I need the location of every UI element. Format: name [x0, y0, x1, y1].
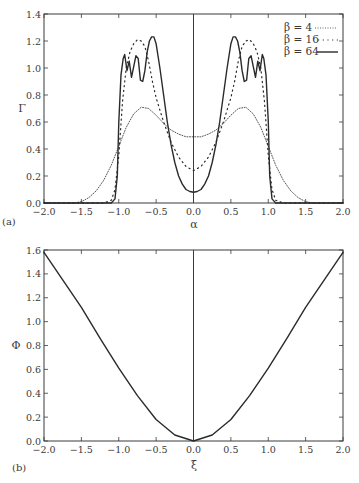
panel-b-y-axis-label: Φ — [11, 339, 20, 352]
y-tick-label: 0.4 — [26, 388, 41, 399]
x-tick-label: 0.5 — [223, 206, 238, 217]
y-tick-label: 0.0 — [26, 198, 41, 209]
y-tick-label: 1.2 — [26, 36, 41, 47]
y-tick-label: 0.4 — [26, 144, 41, 155]
x-tick-label: −1.5 — [70, 444, 93, 455]
x-tick-label: 1.5 — [298, 444, 313, 455]
panel-a-label: (a) — [2, 216, 16, 227]
panel-a-y-axis-label: Γ — [18, 102, 26, 115]
panel-b-chart: −2.0−1.5−1.0−0.50.00.51.01.52.00.00.20.4… — [11, 245, 350, 474]
y-tick-label: 1.0 — [26, 63, 41, 74]
x-tick-label: 1.0 — [261, 444, 276, 455]
x-tick-label: −0.5 — [145, 206, 168, 217]
x-tick-label: −0.5 — [145, 444, 168, 455]
y-tick-label: 1.2 — [26, 292, 41, 303]
legend-item-beta-64: β = 64 — [284, 45, 319, 57]
x-tick-label: 0.5 — [223, 444, 238, 455]
panel-a-x-axis-label: α — [190, 218, 198, 231]
y-tick-label: 1.0 — [26, 316, 41, 327]
y-tick-label: 0.0 — [26, 436, 41, 447]
panel-b-ticks: −2.0−1.5−1.0−0.50.00.51.01.52.00.00.20.4… — [26, 245, 351, 456]
x-tick-label: 1.0 — [261, 206, 276, 217]
y-tick-label: 1.4 — [26, 268, 41, 279]
x-tick-label: 1.5 — [298, 206, 313, 217]
y-tick-label: 0.2 — [26, 412, 41, 423]
legend-item-beta-16: β = 16 — [284, 33, 319, 45]
figure: −2.0−1.5−1.0−0.50.00.51.01.52.00.00.20.4… — [0, 0, 359, 483]
panel-b-label: (b) — [12, 462, 26, 473]
y-tick-label: 0.6 — [26, 117, 41, 128]
y-tick-label: 0.8 — [26, 90, 41, 101]
y-tick-label: 1.6 — [26, 245, 41, 256]
x-tick-label: 0.0 — [186, 444, 201, 455]
y-tick-label: 0.8 — [26, 340, 41, 351]
panel-b-x-axis-label: ξ — [191, 459, 197, 472]
x-tick-label: −1.0 — [107, 444, 130, 455]
y-tick-label: 0.2 — [26, 171, 41, 182]
x-tick-label: −1.5 — [70, 206, 93, 217]
y-tick-label: 0.6 — [26, 364, 41, 375]
legend-item-beta-4: β = 4 — [284, 21, 313, 33]
x-tick-label: 0.0 — [186, 206, 201, 217]
x-tick-label: 2.0 — [335, 206, 350, 217]
panel-a-chart: −2.0−1.5−1.0−0.50.00.51.01.52.00.00.20.4… — [2, 9, 351, 232]
x-tick-label: 2.0 — [335, 444, 350, 455]
x-tick-label: −1.0 — [107, 206, 130, 217]
y-tick-label: 1.4 — [26, 9, 41, 20]
legend: β = 4 β = 16 β = 64 — [284, 21, 340, 57]
